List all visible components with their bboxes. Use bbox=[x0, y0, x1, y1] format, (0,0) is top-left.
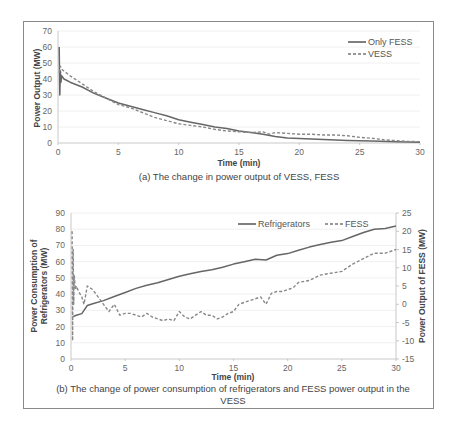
chart-b: 0102030405060708090-15-10-50510152025051… bbox=[29, 208, 427, 406]
y-tick-label: 70 bbox=[43, 26, 53, 36]
chart-b-left-y-axis-label-line1: Power Consumption of bbox=[29, 239, 39, 332]
y-tick-label: 30 bbox=[56, 305, 66, 315]
chart-b-legend-fess: FESS bbox=[345, 219, 369, 229]
y-tick-label: 50 bbox=[56, 273, 66, 283]
right-y-tick-label: 0 bbox=[402, 299, 407, 309]
chart-a-gridlines bbox=[58, 31, 420, 127]
y-tick-label: 40 bbox=[43, 74, 53, 84]
x-tick-label: 30 bbox=[415, 147, 425, 157]
chart-b-axes bbox=[71, 213, 399, 361]
x-tick-label: 20 bbox=[295, 147, 305, 157]
chart-b-legend: Refrigerators FESS bbox=[238, 219, 369, 229]
right-y-tick-label: 25 bbox=[402, 208, 412, 218]
y-tick-label: 10 bbox=[56, 338, 66, 348]
chart-a-legend-only-fess: Only FESS bbox=[368, 37, 413, 47]
chart-b-left-y-axis-label-line2: Refrigerators (MW) bbox=[39, 248, 49, 325]
chart-a: 010203040506070051015202530 Power Output… bbox=[32, 26, 425, 182]
x-tick-label: 0 bbox=[69, 363, 74, 373]
y-tick-label: 0 bbox=[47, 138, 52, 148]
right-y-tick-label: -15 bbox=[402, 354, 415, 364]
x-tick-label: 5 bbox=[123, 363, 128, 373]
chart-b-series bbox=[72, 226, 396, 341]
x-tick-label: 10 bbox=[174, 147, 184, 157]
figure-svg: 010203040506070051015202530 Power Output… bbox=[0, 0, 454, 430]
chart-b-caption-line2: VESS bbox=[220, 395, 245, 406]
right-y-tick-label: 15 bbox=[402, 245, 412, 255]
chart-a-x-axis-label: Time (min) bbox=[218, 158, 261, 168]
y-tick-label: 90 bbox=[56, 208, 66, 218]
chart-b-gridlines bbox=[71, 213, 396, 343]
y-tick-label: 60 bbox=[43, 42, 53, 52]
y-tick-label: 10 bbox=[43, 122, 53, 132]
x-tick-label: 15 bbox=[234, 147, 244, 157]
x-tick-label: 5 bbox=[116, 147, 121, 157]
x-tick-label: 10 bbox=[175, 363, 185, 373]
right-y-tick-label: 5 bbox=[402, 281, 407, 291]
x-tick-label: 20 bbox=[283, 363, 293, 373]
x-tick-label: 0 bbox=[56, 147, 61, 157]
y-tick-label: 80 bbox=[56, 224, 66, 234]
right-y-tick-label: -10 bbox=[402, 336, 415, 346]
x-tick-label: 25 bbox=[337, 363, 347, 373]
x-tick-label: 25 bbox=[355, 147, 365, 157]
chart-a-caption: (a) The change in power output of VESS, … bbox=[139, 171, 340, 182]
chart-b-legend-refrigerators: Refrigerators bbox=[258, 219, 311, 229]
y-tick-label: 70 bbox=[56, 240, 66, 250]
y-tick-label: 20 bbox=[56, 322, 66, 332]
y-tick-label: 40 bbox=[56, 289, 66, 299]
y-tick-label: 60 bbox=[56, 257, 66, 267]
chart-b-right-y-axis-label: Power Output of FESS (MW) bbox=[417, 229, 427, 343]
chart-a-axes bbox=[58, 31, 420, 145]
series-fess bbox=[72, 231, 396, 340]
chart-a-y-axis-label: Power Output (MW) bbox=[32, 48, 42, 127]
chart-b-caption-line1: (b) The change of power consumption of r… bbox=[56, 383, 410, 394]
x-tick-label: 30 bbox=[391, 363, 401, 373]
chart-a-legend-vess: VESS bbox=[368, 49, 392, 59]
right-y-tick-label: 20 bbox=[402, 226, 412, 236]
y-tick-label: 20 bbox=[43, 106, 53, 116]
chart-b-x-axis-label: Time (min) bbox=[212, 372, 255, 382]
series-refrigerators bbox=[73, 226, 396, 317]
y-tick-label: 30 bbox=[43, 90, 53, 100]
y-tick-label: 50 bbox=[43, 58, 53, 68]
right-y-tick-label: 10 bbox=[402, 263, 412, 273]
right-y-tick-label: -5 bbox=[402, 318, 410, 328]
y-tick-label: 0 bbox=[60, 354, 65, 364]
chart-a-legend: Only FESS VESS bbox=[348, 37, 413, 59]
